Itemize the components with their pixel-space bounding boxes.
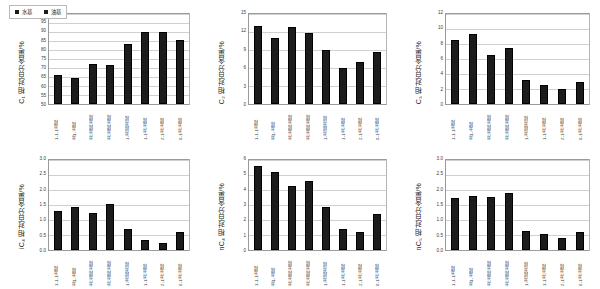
x-tick-label: 1-1井-井段 (542, 106, 548, 140)
y-axis-title: C₁ 相对百分含量/% (14, 0, 30, 145)
x-tick-label: 6-1井-井段 (578, 106, 584, 140)
plot-frame (48, 159, 190, 251)
x-tick-label: 1-1-1井段 (54, 106, 60, 140)
x-tick-label: 1-井段-井段 (323, 252, 329, 286)
legend-label: 油基 (51, 8, 61, 16)
bar (89, 64, 97, 105)
x-tick-label: 井-井段-井段 (107, 252, 113, 286)
bar (356, 232, 364, 250)
chart-legend: 水基油基 (9, 5, 67, 19)
x-tick-label: 1-1井-井段 (542, 252, 548, 286)
x-tick-label: 井-井段-井段 (487, 106, 493, 140)
x-tick-label: 1-1-1井段 (254, 252, 260, 286)
y-tick-label: 2 (243, 218, 246, 223)
x-tick-label: 1-井段-井段 (524, 252, 530, 286)
chart-panel-nc5: nC₅ 相对百分含量/%0.00.51.01.52.02.53.01-1-1井段… (397, 145, 600, 289)
x-tick-label: 1-井段-井段 (323, 106, 329, 140)
bar (576, 232, 584, 250)
bar-series (49, 160, 189, 250)
bar (522, 80, 530, 104)
bar (451, 40, 459, 104)
legend-item: 水基 (15, 8, 32, 16)
y-tick-label: 2.5 (437, 172, 443, 177)
plot-frame (445, 159, 590, 251)
x-axis-ticks: 1-1-1井段井1-井段井-井段-井段井-井段-井段1-井段-井段1-1井-井段… (248, 106, 387, 142)
chart-panel-c3: C₃ 相对百分含量/%0246810121-1-1井段井1-井段井-井段-井段井… (397, 0, 600, 145)
figure-grid: C₁ 相对百分含量/%505560657075808590951001-1-1井… (0, 0, 600, 289)
bar (159, 32, 167, 104)
y-tick-label: 0.0 (437, 249, 443, 254)
bar (124, 229, 132, 250)
y-tick-label: 80 (41, 48, 46, 53)
bar (271, 38, 279, 104)
x-axis-ticks: 1-1-1井段井1-井段井-井段-井段井-井段-井段1-井段-井段1-1井-井段… (48, 252, 190, 288)
x-tick-label: 6-1井-井段 (178, 106, 184, 140)
plot-area: 024681012 (427, 13, 590, 105)
bar (254, 166, 262, 250)
plot-area: 0123456 (230, 159, 387, 251)
bar (288, 186, 296, 251)
bar (487, 197, 495, 250)
x-tick-label: 井-井段-井段 (288, 106, 294, 140)
bar (373, 214, 381, 250)
y-axis-title: nC₄ 相对百分含量/% (214, 145, 230, 289)
x-axis-ticks: 1-1-1井段井1-井段井-井段-井段井-井段-井段1-井段-井段1-1井-井段… (445, 106, 590, 142)
y-tick-label: 2.5 (40, 172, 46, 177)
bar-series (446, 160, 589, 250)
plot-frame (48, 13, 190, 105)
x-tick-label: 井1-井段 (469, 252, 475, 286)
y-tick-label: 3 (243, 84, 246, 89)
bar (159, 243, 167, 251)
y-tick-label: 1.5 (40, 203, 46, 208)
y-axis-title-text: C₃ 相对百分含量/% (414, 41, 424, 104)
bar (254, 26, 262, 104)
x-tick-label: 1-1-1井段 (254, 106, 260, 140)
bar (356, 62, 364, 104)
bar (505, 193, 513, 250)
y-tick-label: 2 (440, 87, 443, 92)
x-tick-label: 井1-井段 (72, 106, 78, 140)
y-tick-label: 0 (243, 249, 246, 254)
bar-series (446, 14, 589, 104)
x-tick-label: 井-井段-井段 (288, 252, 294, 286)
bar (373, 52, 381, 104)
y-tick-label: 12 (241, 29, 246, 34)
y-tick-label: 3 (243, 203, 246, 208)
y-axis-title-text: C₁ 相对百分含量/% (17, 41, 27, 104)
bar (522, 231, 530, 251)
bar (540, 85, 548, 104)
y-axis-title: nC₅ 相对百分含量/% (411, 145, 427, 289)
y-tick-label: 5 (243, 172, 246, 177)
y-tick-label: 0.0 (40, 249, 46, 254)
y-axis-ticks: 024681012 (427, 13, 444, 105)
y-tick-label: 3.0 (437, 157, 443, 162)
x-tick-label: 2-1井-井段 (358, 106, 364, 140)
x-tick-label: 井1-井段 (469, 106, 475, 140)
x-tick-label: 井-井段-井段 (306, 106, 312, 140)
y-axis-ticks: 0.00.51.01.52.02.53.0 (30, 159, 47, 251)
bar (54, 211, 62, 250)
chart-panel-c1: C₁ 相对百分含量/%505560657075808590951001-1-1井… (0, 0, 200, 145)
bar (176, 232, 184, 250)
y-tick-label: 15 (241, 11, 246, 16)
y-axis-title-text: nC₅ 相对百分含量/% (414, 183, 424, 250)
bar (322, 50, 330, 104)
bar (305, 181, 313, 250)
bar (451, 198, 459, 251)
bar (54, 75, 62, 104)
x-tick-label: 2-1井-井段 (160, 252, 166, 286)
y-axis-ticks: 0.00.51.01.52.02.53.0 (427, 159, 444, 251)
bar (322, 207, 330, 251)
y-tick-label: 55 (41, 94, 46, 99)
chart-panel-ic4: iC₄ 相对百分含量/%0.00.51.01.52.02.53.01-1-1井段… (0, 145, 200, 289)
bar (271, 172, 279, 250)
x-tick-label: 1-1-1井段 (451, 252, 457, 286)
x-tick-label: 井-井段-井段 (306, 252, 312, 286)
x-tick-label: 6-1井-井段 (178, 252, 184, 286)
y-tick-label: 6 (440, 57, 443, 62)
x-tick-label: 1-1-1井段 (451, 106, 457, 140)
x-axis-ticks: 1-1-1井段井1-井段井-井段-井段井-井段-井段1-井段-井段1-1井-井段… (48, 106, 190, 142)
y-axis-title: iC₄ 相对百分含量/% (14, 145, 30, 289)
bar (176, 40, 184, 104)
x-tick-label: 2-1井-井段 (560, 252, 566, 286)
